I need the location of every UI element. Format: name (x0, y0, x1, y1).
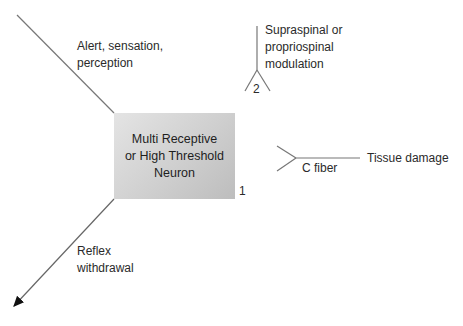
reflex-label-line2: withdrawal (77, 260, 134, 277)
alert-label-line2: perception (77, 55, 163, 72)
c-fiber-label: C fiber (302, 160, 337, 177)
neuron-label-line2: or High Threshold (125, 148, 224, 165)
reflex-label-line1: Reflex (77, 243, 134, 260)
alert-label-line1: Alert, sensation, (77, 38, 163, 55)
alert-label: Alert, sensation, perception (77, 38, 163, 72)
reflex-label: Reflex withdrawal (77, 243, 134, 277)
modulation-label-line2: propriospinal (265, 39, 342, 56)
modulation-label-line1: Supraspinal or (265, 22, 342, 39)
neuron-number: 1 (239, 183, 246, 200)
modulation-label: Supraspinal or propriospinal modulation (265, 22, 342, 73)
neuron-box: Multi Receptive or High Threshold Neuron (114, 113, 235, 199)
neuron-label-line1: Multi Receptive (125, 131, 224, 148)
modulation-label-line3: modulation (265, 56, 342, 73)
modulation-number: 2 (253, 81, 260, 98)
tissue-damage-label: Tissue damage (367, 150, 449, 167)
neuron-label-line3: Neuron (125, 165, 224, 182)
